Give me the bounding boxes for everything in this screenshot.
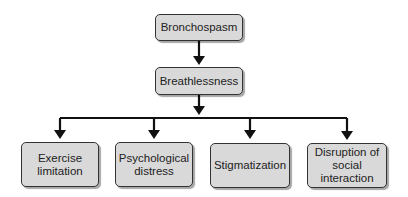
node-label: Breathlessness [160, 75, 239, 88]
node-disruption-of-social-interaction: Disruption of social interaction [307, 143, 387, 188]
node-stigmatization: Stigmatization [210, 143, 290, 188]
node-bronchospasm: Bronchospasm [155, 14, 243, 41]
node-label: Disruption of social interaction [314, 146, 380, 185]
node-psychological-distress: Psychological distress [115, 142, 193, 187]
node-label: Exercise limitation [36, 152, 84, 178]
node-breathlessness: Breathlessness [155, 67, 243, 95]
node-label: Bronchospasm [161, 21, 238, 34]
node-label: Stigmatization [214, 159, 286, 172]
node-exercise-limitation: Exercise limitation [21, 142, 99, 187]
node-label: Psychological distress [119, 152, 189, 178]
